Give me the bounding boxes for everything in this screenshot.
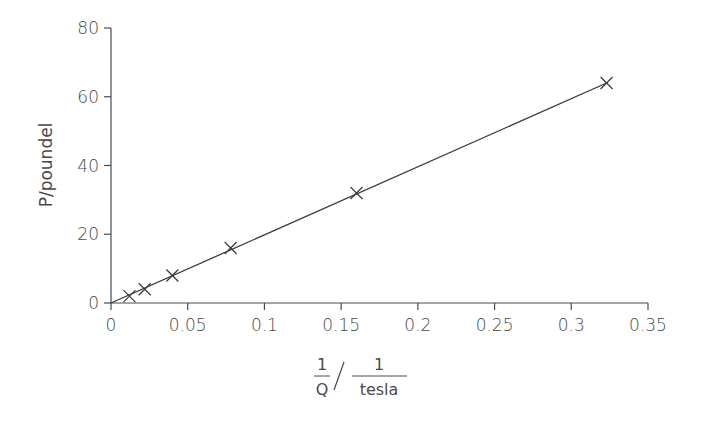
x-tick-label: 0.3 (558, 315, 585, 335)
x-tick-label: 0.1 (251, 315, 278, 335)
y-tick-label: 40 (77, 156, 99, 176)
best-fit-line (111, 83, 607, 303)
x-marker-icon (601, 77, 613, 89)
x-tick-label: 0.35 (629, 315, 667, 335)
x-axis-title: 1 Q 1 tesla (314, 355, 407, 399)
x-title-right-denominator: tesla (360, 380, 399, 399)
axes: 02040608000.050.10.150.20.250.30.35 (77, 18, 667, 335)
x-tick-label: 0 (106, 315, 117, 335)
x-title-slash (334, 362, 344, 390)
y-tick-label: 80 (77, 18, 99, 38)
fit-line (111, 83, 607, 303)
x-title-left-numerator: 1 (317, 355, 327, 374)
y-tick-label: 20 (77, 224, 99, 244)
x-tick-label: 0.25 (476, 315, 514, 335)
y-tick-label: 60 (77, 87, 99, 107)
x-title-left-denominator: Q (316, 380, 329, 399)
y-tick-label: 0 (88, 293, 99, 313)
x-tick-label: 0.15 (322, 315, 360, 335)
x-marker-icon (166, 270, 178, 282)
x-tick-label: 0.05 (169, 315, 207, 335)
x-title-right-numerator: 1 (374, 355, 384, 374)
x-tick-label: 0.2 (404, 315, 431, 335)
y-axis-title: P/poundel (36, 123, 56, 208)
scatter-chart: 02040608000.050.10.150.20.250.30.35 P/po… (0, 0, 702, 426)
x-marker-icon (350, 187, 362, 199)
